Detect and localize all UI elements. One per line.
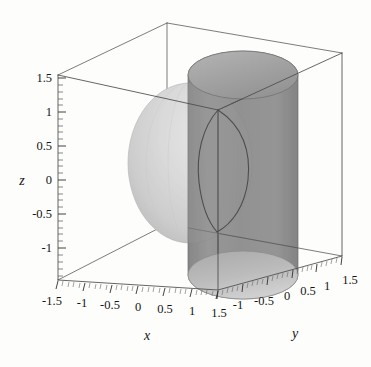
z-tick-label-1: 1 [46,105,52,119]
y-tick-label-5: 1.5 [342,273,358,287]
cylinder-top-cap [188,51,298,99]
y-axis-title: y [290,326,299,341]
x-tick-label-5: 1 [189,304,195,318]
z-tick-label-2: 0.5 [36,139,52,153]
z-axis-title: z [18,173,25,188]
x-tick-label-0: -1.5 [42,294,62,308]
y-tick-label-0: -1 [233,298,243,312]
x-tick-label-4: 0.5 [157,302,173,316]
x-tick-label-6: 1.5 [211,306,227,320]
z-tick-label-4: -0.5 [32,207,52,221]
plot-figure: 1.5 1 0.5 0 -0.5 -1 z [0,0,371,367]
z-tick-label-0: 1.5 [36,71,52,85]
z-axis: 1.5 1 0.5 0 -0.5 -1 z [18,71,66,276]
x-axis: -1.5 -1 -0.5 0 0.5 1 1.5 x [42,281,227,343]
y-tick-label-1: -0.5 [254,294,274,308]
y-tick-label-2: 0 [284,289,290,303]
y-tick-label-4: 1 [324,279,330,293]
y-tick-label-3: 0.5 [300,284,316,298]
x-tick-label-3: 0 [135,300,141,314]
z-tick-label-5: -1 [42,241,52,255]
plot-canvas: 1.5 1 0.5 0 -0.5 -1 z [0,0,371,367]
x-tick-label-1: -1 [77,296,87,310]
x-axis-title: x [143,328,151,343]
z-tick-label-3: 0 [46,173,52,187]
x-tick-label-2: -0.5 [100,298,120,312]
cylinder-bottom-cap [188,251,298,299]
